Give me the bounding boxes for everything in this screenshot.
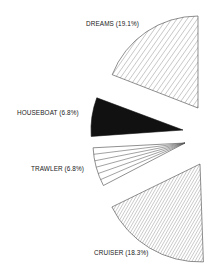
label-trawler: TRAWLER (6.8%) [31,165,84,173]
slice-cruiser [112,164,203,262]
slice-houseboat [91,98,183,137]
label-houseboat: HOUSEBOAT (6.8%) [17,109,79,117]
slice-dreams [112,16,198,108]
pie-chart: DREAMS (19.1%) HOUSEBOAT (6.8%) TRAWLER … [0,0,221,276]
label-dreams: DREAMS (19.1%) [86,20,139,28]
label-cruiser: CRUISER (18.3%) [94,249,148,257]
